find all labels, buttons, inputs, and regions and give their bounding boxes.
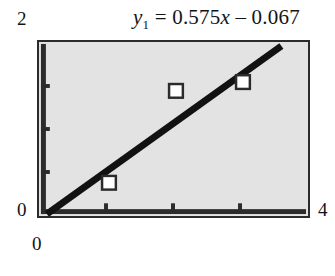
title-minus-sign: –	[235, 5, 246, 29]
plot-title-equation: y1 = 0.575x – 0.067	[133, 2, 333, 32]
data-point-marker	[236, 75, 250, 89]
title-equals: =	[155, 5, 167, 29]
plot-area	[37, 40, 310, 218]
data-point-marker	[169, 84, 183, 98]
x-axis-spine	[41, 209, 306, 214]
data-point-markers	[102, 75, 250, 189]
regression-fit-line	[47, 46, 282, 214]
plot-canvas	[39, 42, 308, 216]
y-axis-spine	[41, 44, 46, 214]
y-axis-max-label: 2	[17, 9, 27, 28]
title-variable: y	[133, 5, 143, 29]
title-intercept-value: 0.067	[252, 5, 300, 29]
title-slope-value: 0.575	[172, 5, 220, 29]
data-point-marker	[102, 176, 116, 190]
title-subscript: 1	[143, 17, 150, 32]
scatter-plot-figure: y1 = 0.575x – 0.067	[0, 0, 335, 276]
title-slope-variable: x	[220, 5, 230, 29]
x-axis-min-label: 0	[32, 234, 42, 253]
y-axis-min-label: 0	[17, 200, 27, 219]
x-axis-max-label: 4	[318, 200, 328, 219]
